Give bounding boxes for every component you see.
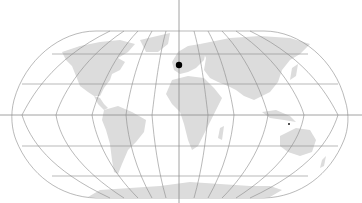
world-map[interactable]: [0, 0, 362, 203]
meridian-w30: [152, 31, 166, 198]
landmass-australia: [280, 128, 316, 156]
landmass-central-america: [94, 96, 108, 110]
landmass-europe: [172, 44, 206, 74]
secondary-marker: [288, 123, 290, 125]
location-marker[interactable]: [176, 62, 182, 68]
landmass-madagascar: [218, 126, 224, 140]
landmass-africa: [166, 76, 222, 150]
landmass-new-zealand: [320, 156, 326, 168]
landmass-japan: [290, 64, 298, 80]
landmass-greenland: [140, 33, 170, 52]
landmass-south-america: [102, 106, 146, 174]
landmass-antarctica: [88, 182, 282, 197]
landmass-north-america: [62, 40, 135, 96]
